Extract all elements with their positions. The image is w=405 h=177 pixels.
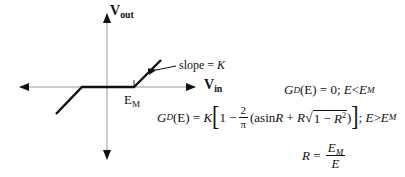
eq3-num-E: E — [328, 140, 336, 155]
threshold-label: EM — [124, 93, 140, 106]
eq2-close-bracket: ] — [351, 104, 358, 130]
eq2-R1: R — [275, 111, 283, 124]
slope-annotation-text: slope = — [179, 58, 217, 72]
eq2-arg: (E) — [173, 111, 190, 124]
eq2-frac-den: π — [240, 118, 246, 130]
eq2-R3: R — [334, 111, 342, 126]
eq1-cond-var: E — [344, 83, 352, 96]
eq1-cond-rhs: E — [359, 83, 367, 96]
eq2-one-minus: 1 − — [219, 111, 236, 124]
eq2-cond-var: E — [365, 111, 373, 124]
eq1-arg: (E) — [300, 83, 317, 96]
vout-label: Vout — [110, 4, 134, 18]
eq1-rhs: 0; — [330, 83, 340, 96]
eq2-cond-rhs: E — [381, 111, 389, 124]
vin-label: Vin — [204, 78, 222, 92]
eq2-sqrt-one-minus: 1 − — [314, 111, 334, 126]
vin-label-main: V — [204, 77, 214, 92]
eq2-square: 2 — [342, 111, 346, 120]
eq2-R2: R — [297, 111, 305, 124]
vin-label-sub: in — [214, 83, 222, 94]
eq3-denominator: E — [332, 156, 340, 170]
eq2-fraction: 2π — [239, 105, 249, 130]
eq2-G: G — [157, 111, 166, 124]
eq3-equals: = — [313, 149, 320, 162]
eq2-K: K — [203, 111, 212, 124]
eq2-sqrt-body: 1 − R2 — [313, 110, 347, 125]
equation-below-threshold: GD(E) = 0; E<EM — [284, 83, 375, 96]
eq1-equals: = — [320, 83, 327, 96]
slope-annotation: slope = K — [179, 59, 225, 71]
slope-symbol: K — [217, 58, 225, 72]
sqrt-icon: √ — [305, 111, 313, 125]
eq2-frac-num: 2 — [239, 105, 249, 118]
eq2-asin: (asin — [250, 111, 275, 124]
equation-above-threshold: GD(E) = K [ 1 − 2π (asinR + R √1 − R2) ]… — [157, 103, 396, 131]
eq2-cond-op: > — [373, 111, 380, 124]
eq3-fraction: EME — [326, 141, 346, 170]
equation-ratio: R = EME — [302, 139, 347, 171]
eq2-equals: = — [193, 111, 200, 124]
eq2-open-bracket: [ — [212, 104, 219, 130]
eq2-plus: + — [283, 111, 297, 124]
vout-label-main: V — [110, 3, 120, 18]
eq3-R: R — [302, 149, 310, 162]
vout-label-sub: out — [120, 9, 134, 20]
eq1-cond-op: < — [352, 83, 359, 96]
eq2-sqrt: √1 − R2 — [305, 110, 347, 125]
slope-pointer — [156, 66, 176, 70]
threshold-label-sub: M — [132, 99, 140, 109]
eq3-numerator: EM — [326, 141, 346, 156]
diagram-canvas: Vout Vin EM slope = K GD(E) = 0; E<EM GD… — [0, 0, 405, 177]
threshold-label-main: E — [124, 92, 132, 107]
eq1-G: G — [284, 83, 293, 96]
